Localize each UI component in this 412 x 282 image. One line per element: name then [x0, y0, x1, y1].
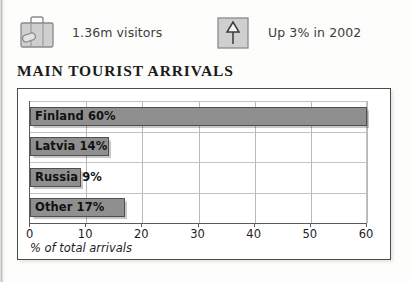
- page-title: MAIN TOURIST ARRIVALS: [17, 62, 234, 80]
- up-arrow-icon: [214, 12, 254, 52]
- x-tick-label: 30: [190, 227, 205, 241]
- stat-visitors: 1.36m visitors: [18, 12, 162, 52]
- chart-x-axis: 0102030405060: [29, 223, 366, 243]
- x-tick-label: 10: [78, 227, 93, 241]
- chart-plot-area: Finland 60%Latvia 14%Russia 9%Other 17%: [29, 101, 367, 224]
- stat-growth-label: Up 3% in 2002: [268, 25, 361, 40]
- stat-growth: Up 3% in 2002: [214, 12, 361, 52]
- stats-row: 1.36m visitors Up 3% in 2002: [18, 12, 398, 56]
- x-tick-label: 20: [134, 227, 149, 241]
- bar-label-latvia: Latvia 14%: [35, 137, 107, 156]
- page-scan-edge-inner: [3, 0, 5, 282]
- stat-visitors-label: 1.36m visitors: [72, 25, 162, 40]
- gridline-horizontal: [30, 132, 367, 133]
- gridline-horizontal: [30, 193, 367, 194]
- bar-label-finland: Finland 60%: [35, 107, 116, 126]
- x-tick-label: 60: [359, 227, 374, 241]
- chart-x-axis-caption: % of total arrivals: [30, 241, 132, 255]
- x-tick-label: 50: [303, 227, 318, 241]
- gridline-vertical: [367, 101, 368, 223]
- bar-label-other: Other 17%: [35, 198, 104, 217]
- x-tick-label: 40: [246, 227, 261, 241]
- bar-label-russia: Russia 9%: [35, 168, 102, 187]
- gridline-horizontal: [30, 162, 367, 163]
- plot-top-edge: [30, 101, 367, 102]
- suitcase-icon: [18, 12, 58, 52]
- x-tick-label: 0: [26, 227, 33, 241]
- chart-frame: Finland 60%Latvia 14%Russia 9%Other 17% …: [17, 88, 391, 260]
